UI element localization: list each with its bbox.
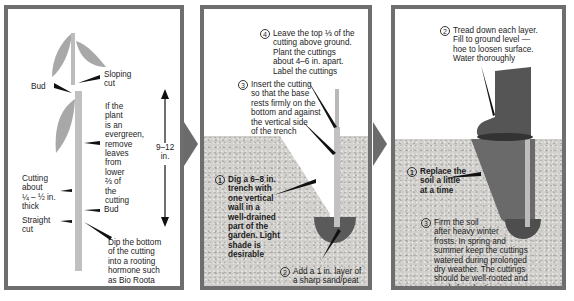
label-dip-note: Dip the bottom of the cutting into a roo… — [108, 238, 161, 285]
step-3-text: 3Insert the cutting so that the base res… — [238, 80, 321, 136]
label-bud-bottom: Bud — [104, 205, 119, 214]
label-evergreen-note: If the plant is an evergreen, remove lea… — [105, 102, 144, 205]
step-arrow-connector — [184, 122, 198, 166]
panel-plant-cutting: 4Leave the top ⅓ of the cutting above gr… — [200, 5, 372, 290]
step-1-text: 1Dig a 6–8 in. trench with one vertical … — [215, 175, 280, 260]
panel-prepare-cutting: Bud Sloping cut If the plant is an everg… — [4, 5, 184, 290]
step-arrow-connector — [373, 122, 387, 166]
step-4-text: 4Leave the top ⅓ of the cutting above gr… — [260, 29, 354, 76]
label-length: 9–12 in. — [156, 143, 174, 162]
boot-icon — [477, 67, 531, 137]
leaf-icon — [76, 41, 106, 67]
step-1-text: 1Replace the soil a little at a time — [407, 167, 466, 195]
label-straight-cut: Straight cut — [22, 216, 50, 235]
leaf-icon — [56, 99, 75, 153]
panel-backfill: 2Tread down each layer. Fill to ground l… — [391, 5, 566, 290]
leaf-icon — [52, 33, 72, 77]
label-thickness: Cutting about ¼ – ½ in. thick — [22, 174, 56, 212]
step-2-text: 2Add a 1 in. layer of a sharp sand/peat … — [280, 267, 361, 290]
label-sloping-cut: Sloping cut — [104, 70, 131, 89]
step-3-text: 3Firm the soil after heavy winter frosts… — [421, 218, 528, 290]
step-2-text: 2Tread down each layer. Fill to ground l… — [440, 26, 538, 64]
label-bud-top: Bud — [31, 82, 46, 91]
